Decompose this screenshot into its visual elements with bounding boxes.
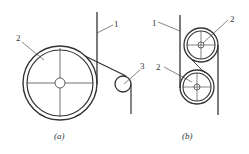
leader-2b-upper	[203, 20, 228, 43]
label-1b: 1	[152, 18, 157, 28]
label-3a: 3	[140, 61, 145, 71]
guide-roller	[115, 76, 131, 92]
label-2b-upper: 2	[230, 14, 235, 24]
drum-hub	[55, 78, 65, 88]
caption-b: (b)	[182, 131, 193, 141]
label-2a: 2	[16, 33, 21, 43]
panel-a	[22, 12, 140, 120]
leader-1b	[158, 22, 180, 31]
leader-2b-lower	[164, 67, 192, 82]
pulley-diagram: 1 2 3 (a) 1 2 2 (b)	[0, 0, 249, 154]
label-1a: 1	[114, 19, 119, 29]
leader-1a	[97, 25, 113, 33]
label-2b-lower: 2	[156, 62, 161, 72]
panel-b	[158, 15, 228, 115]
caption-a: (a)	[54, 131, 65, 141]
